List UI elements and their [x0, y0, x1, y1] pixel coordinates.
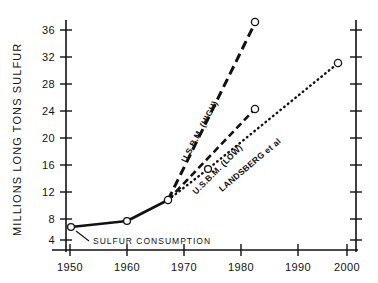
- x-tick-label-1980: 1980: [228, 261, 254, 273]
- x-tick-label-1970: 1970: [171, 261, 197, 273]
- data-point-marker: [251, 18, 258, 25]
- series-line-sulfur-consumption: [71, 200, 168, 227]
- x-tick-label-1990: 1990: [285, 261, 311, 273]
- y-tick-label-20: 20: [42, 132, 55, 144]
- series-label-usbm-high: U.S.B.M. (HIGH): [179, 99, 220, 164]
- y-tick-label-12: 12: [42, 186, 55, 198]
- x-tick-label-1960: 1960: [114, 261, 140, 273]
- y-tick-label-28: 28: [42, 78, 55, 90]
- data-point-marker: [124, 218, 131, 225]
- y-tick-label-36: 36: [42, 24, 55, 36]
- chart-canvas: 36 32 28 24 20 16 12 8 4 1950 1960 1970 …: [0, 0, 378, 283]
- y-tick-label-4: 4: [48, 234, 55, 246]
- annotation-leader-line: [76, 231, 89, 241]
- y-tick-label-24: 24: [42, 105, 55, 117]
- data-point-marker: [251, 105, 258, 112]
- x-tick-label-2000: 2000: [334, 261, 360, 273]
- data-point-marker: [334, 59, 341, 66]
- sulfur-projection-chart: 36 32 28 24 20 16 12 8 4 1950 1960 1970 …: [0, 0, 378, 283]
- y-tick-label-32: 32: [42, 51, 55, 63]
- x-tick-label-1950: 1950: [57, 261, 83, 273]
- data-point-marker: [68, 224, 75, 231]
- annotation-sulfur-consumption: SULFUR CONSUMPTION: [93, 236, 211, 246]
- y-tick-label-8: 8: [48, 213, 55, 225]
- y-tick-label-16: 16: [42, 159, 55, 171]
- data-point-marker: [164, 196, 171, 203]
- y-axis-title: MILLIONS LONG TONS SULFUR: [11, 43, 23, 236]
